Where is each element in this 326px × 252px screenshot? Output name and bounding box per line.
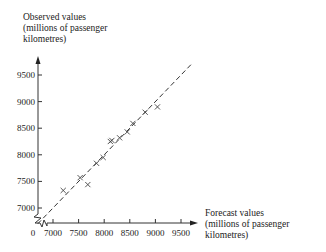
data-point-x-marker-icon	[109, 138, 114, 143]
origin-label: 0	[31, 228, 36, 238]
data-point-x-marker-icon	[125, 129, 130, 134]
x-axis-arrow-icon	[190, 221, 198, 226]
x-tick-label: 8500	[121, 228, 140, 238]
x-tick-label: 8000	[95, 228, 114, 238]
data-point-x-marker-icon	[61, 188, 66, 193]
data-point-x-marker-icon	[94, 161, 99, 166]
scatter-plot: 0700075008000850090009500700075008000850…	[0, 0, 326, 252]
y-tick-label: 9000	[17, 97, 36, 107]
y-axis-arrow-icon	[36, 56, 41, 64]
reference-line-y-equals-x	[38, 64, 192, 224]
data-point-x-marker-icon	[155, 104, 160, 109]
x-tick-label: 9500	[172, 228, 191, 238]
x-tick-label: 9000	[146, 228, 165, 238]
y-tick-label: 8000	[17, 150, 36, 160]
y-tick-label: 7000	[17, 203, 36, 213]
data-point-x-marker-icon	[85, 182, 90, 187]
data-point-x-marker-icon	[143, 110, 148, 115]
y-tick-label: 7500	[17, 176, 36, 186]
y-tick-label: 8500	[17, 123, 36, 133]
x-tick-label: 7500	[70, 228, 89, 238]
y-tick-label: 9500	[17, 70, 36, 80]
x-tick-label: 7000	[44, 228, 63, 238]
data-point-x-marker-icon	[117, 135, 122, 140]
